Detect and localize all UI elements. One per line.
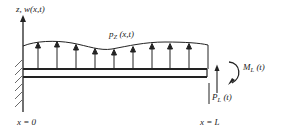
axis-label: z, w(x,t) bbox=[15, 4, 45, 14]
distributed-load-arrows bbox=[36, 42, 192, 70]
beam bbox=[23, 69, 207, 77]
moment-label: ML (t) bbox=[242, 62, 265, 73]
left-position-label: x = 0 bbox=[16, 117, 37, 127]
cantilever-beam-diagram: z, w(x,t) pZ (x,t) ML (t) PL (t) x = 0 x… bbox=[0, 0, 282, 129]
tip-force-label: PL (t) bbox=[211, 92, 232, 103]
right-position-label: x = L bbox=[199, 117, 220, 127]
load-envelope-curve bbox=[23, 41, 208, 49]
fixed-support-hatch bbox=[15, 60, 22, 107]
z-axis bbox=[20, 15, 26, 112]
moment-arc-arrow bbox=[228, 62, 239, 85]
distributed-load-label: pZ (x,t) bbox=[108, 29, 134, 40]
